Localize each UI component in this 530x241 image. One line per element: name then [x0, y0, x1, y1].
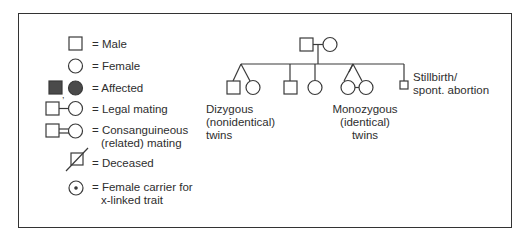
monozygous-twin-1-icon: [341, 81, 355, 95]
legend-male-label: = Male: [92, 38, 127, 51]
monozygous-label-3: twins: [331, 129, 399, 142]
stillbirth-label-2: spont. abortion: [413, 84, 489, 97]
parent-male-icon: [300, 38, 313, 51]
parent-female-icon: [323, 38, 337, 52]
sibling-female-icon: [308, 81, 322, 95]
legend-female-label: = Female: [92, 60, 140, 73]
deceased-slash-icon: [66, 148, 88, 171]
consanguineous-male-icon: [46, 124, 59, 137]
stillbirth-label-1: Stillbirth/: [413, 71, 457, 84]
legal-mating-male-icon: [46, 102, 59, 115]
monozygous-twin-2-icon: [359, 81, 373, 95]
male-square-icon: [69, 37, 82, 50]
legend-carrier-label: = Female carrier for: [92, 181, 193, 194]
legend-consanguineous-label: = Consanguineous: [92, 124, 188, 137]
dizygous-label-3: twins: [206, 129, 232, 142]
legal-mating-female-icon: [69, 102, 83, 116]
dizygous-twin-male-icon: [227, 81, 240, 94]
legend-legal-mating-label: = Legal mating: [92, 103, 168, 116]
dizygous-label-2: (nonidentical): [206, 116, 275, 129]
dizygous-label-1: Dizygous: [206, 103, 253, 116]
legend-deceased-label: = Deceased: [92, 157, 154, 170]
legend-carrier-label-2: x-linked trait: [101, 194, 163, 207]
monozygous-label-2: (identical): [331, 116, 399, 129]
legend-consanguineous-label-2: (related) mating: [101, 137, 182, 150]
affected-female-icon: [69, 81, 83, 95]
legend-affected-comma: ,: [62, 89, 65, 102]
monozygous-label-1: Monozygous: [331, 103, 399, 116]
dizygous-twin-female-icon: [246, 81, 260, 95]
stillbirth-square-icon: [400, 81, 408, 89]
sibling-male-icon: [284, 81, 297, 94]
legend-affected-label: = Affected: [92, 82, 143, 95]
female-circle-icon: [69, 59, 83, 73]
consanguineous-female-icon: [69, 124, 83, 138]
affected-male-icon: [49, 81, 62, 94]
